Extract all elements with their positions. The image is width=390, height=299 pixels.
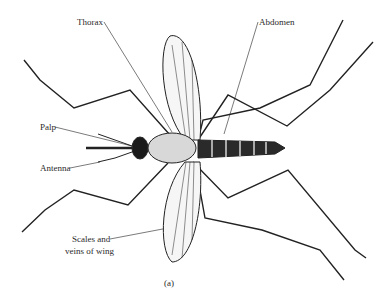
abdomen-leader (224, 22, 258, 134)
antenna-upper (98, 134, 132, 146)
palp-label: Palp (40, 122, 56, 132)
wing-upper (163, 36, 201, 140)
wing-label-line1: Scales and (72, 234, 110, 244)
wing-lower (163, 162, 200, 262)
wing-leader (110, 228, 168, 239)
leg-lower-right-front (196, 168, 344, 280)
wing-label-line2: veins of wing (65, 246, 114, 256)
leg-lower-left (22, 163, 168, 232)
abdomen-label: Abdomen (259, 17, 295, 27)
antenna-lower (98, 152, 132, 162)
thorax (148, 133, 196, 163)
leg-lower-right-back (193, 162, 366, 258)
mosquito-illustration (0, 0, 390, 299)
thorax-label: Thorax (77, 17, 103, 27)
palp-leader (55, 127, 132, 146)
antenna-label: Antenna (40, 163, 71, 173)
antenna-leader (70, 162, 100, 168)
leg-upper-right-back (198, 42, 373, 140)
head (132, 137, 148, 159)
figure-caption: (a) (164, 278, 174, 288)
abdomen (198, 140, 285, 158)
leg-upper-right-front (200, 20, 343, 132)
thorax-leader (104, 22, 172, 132)
